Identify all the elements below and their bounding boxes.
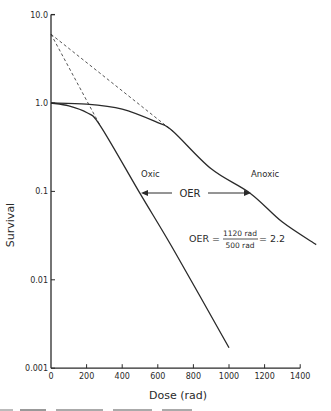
arrowhead-left-icon [141,190,148,196]
oxic-label: Oxic [141,169,160,179]
oer-formula: OER = 1120 rad 500 rad = 2.2 [189,229,285,250]
x-tick-label: 1200 [254,372,274,381]
x-axis-label: Dose (rad) [149,389,207,402]
axes [51,15,300,369]
oer-arrow-label: OER [179,188,200,199]
series-anoxic-extrapolation [51,34,173,131]
survival-curve-chart: 10.01.00.10.010.001 02004006008001000120… [0,0,331,411]
clipped-caption-line [0,405,331,411]
x-axis-ticks: 0200400600800100012001400 [48,364,310,381]
y-tick-label: 0.001 [25,364,48,373]
oer-numerator: 1120 rad [223,229,257,238]
x-tick-label: 0 [48,372,53,381]
series-oxic-extrapolation [51,34,100,125]
x-tick-label: 1400 [290,372,310,381]
y-axis-label: Survival [4,203,17,247]
x-tick-label: 200 [79,372,94,381]
x-tick-label: 800 [186,372,201,381]
oer-arrow: OER [141,188,251,199]
oer-result: = 2.2 [259,233,285,244]
y-tick-label: 10.0 [30,11,48,20]
series-oxic [51,103,229,348]
x-tick-label: 1000 [219,372,239,381]
y-tick-label: 0.01 [30,276,48,285]
oer-denominator: 500 rad [225,241,254,250]
anoxic-label: Anoxic [251,169,280,179]
x-tick-label: 400 [115,372,130,381]
y-tick-label: 1.0 [35,99,48,108]
y-tick-label: 0.1 [35,187,48,196]
x-tick-label: 600 [150,372,165,381]
oer-formula-lhs: OER = [189,233,220,244]
